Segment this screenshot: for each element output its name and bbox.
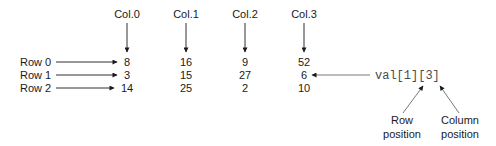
column-position-line2: position xyxy=(441,128,479,140)
row-arrows xyxy=(56,62,117,88)
cell-1-1: 15 xyxy=(180,69,192,81)
cell-2-0: 14 xyxy=(121,82,133,94)
column-headers: Col.0 Col.1 Col.2 Col.3 xyxy=(114,8,317,20)
cell-1-0: 3 xyxy=(124,69,130,81)
cell-0-3: 52 xyxy=(298,56,310,68)
column-position-line1: Column xyxy=(441,114,479,126)
row-position-line1: Row xyxy=(391,114,413,126)
row-label-0: Row 0 xyxy=(20,56,51,68)
cell-0-2: 9 xyxy=(242,56,248,68)
row-position-label: Row position xyxy=(383,114,421,140)
row-position-arrow xyxy=(403,86,423,113)
row-position-line2: position xyxy=(383,128,421,140)
cell-0-1: 16 xyxy=(180,56,192,68)
column-position-label: Column position xyxy=(441,114,479,140)
column-label-3: Col.3 xyxy=(291,8,317,20)
row-headers: Row 0 Row 1 Row 2 xyxy=(20,56,51,94)
cell-1-2: 27 xyxy=(239,69,251,81)
column-label-1: Col.1 xyxy=(173,8,199,20)
array-diagram: Col.0 Col.1 Col.2 Col.3 Row 0 Row 1 Row … xyxy=(0,0,496,146)
cell-0-0: 8 xyxy=(124,56,130,68)
row-label-2: Row 2 xyxy=(20,82,51,94)
cell-1-3: 6 xyxy=(301,69,307,81)
column-arrows xyxy=(127,23,304,52)
cell-2-1: 25 xyxy=(180,82,192,94)
column-position-arrow xyxy=(440,86,459,113)
row-label-1: Row 1 xyxy=(20,69,51,81)
cell-2-2: 2 xyxy=(242,82,248,94)
cell-2-3: 10 xyxy=(298,82,310,94)
index-expression: val[1][3] xyxy=(375,69,440,83)
column-label-2: Col.2 xyxy=(232,8,258,20)
column-label-0: Col.0 xyxy=(114,8,140,20)
array-values: 8 16 9 52 3 15 27 6 14 25 2 10 xyxy=(121,56,310,94)
